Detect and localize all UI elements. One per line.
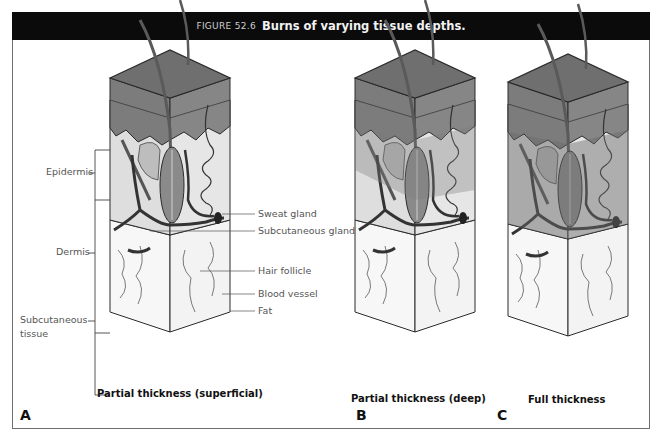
layer-brackets bbox=[88, 150, 110, 395]
panel-a-illustration bbox=[110, 0, 230, 332]
caption-panel-b: Partial thickness (deep) bbox=[351, 393, 486, 404]
label-dermis: Dermis bbox=[56, 246, 90, 257]
panel-letter-a: A bbox=[20, 407, 31, 423]
panel-b-illustration bbox=[355, 0, 475, 332]
panel-letter-c: C bbox=[497, 407, 507, 423]
panel-c-illustration bbox=[508, 4, 628, 336]
panel-letter-b: B bbox=[356, 407, 367, 423]
label-sweat-gland: Sweat gland bbox=[258, 208, 317, 219]
caption-panel-c: Full thickness bbox=[528, 394, 606, 405]
label-epidermis: Epidermis bbox=[46, 166, 93, 177]
label-hair-follicle: Hair follicle bbox=[258, 265, 311, 276]
caption-panel-a: Partial thickness (superficial) bbox=[97, 388, 263, 399]
skin-diagram bbox=[0, 0, 663, 442]
label-blood-vessel: Blood vessel bbox=[258, 288, 318, 299]
label-subcutaneous: Subcutaneous bbox=[20, 314, 88, 325]
label-subcutaneous-tissue: tissue bbox=[20, 328, 48, 339]
label-fat: Fat bbox=[258, 305, 272, 316]
label-subcutaneous-gland: Subcutaneous gland bbox=[258, 225, 355, 236]
